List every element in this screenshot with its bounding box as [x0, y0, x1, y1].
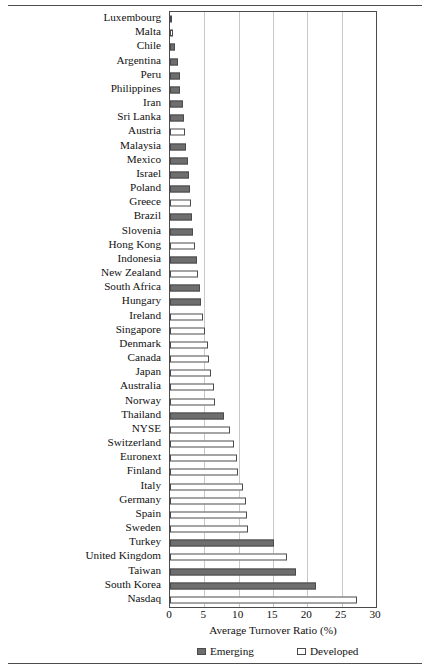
bar-row — [170, 196, 376, 210]
bar-row — [170, 380, 376, 394]
category-label-canada: Canada — [127, 352, 161, 363]
category-label-sweden: Sweden — [126, 522, 161, 533]
plot-area — [169, 11, 377, 608]
bar-mexico — [170, 157, 188, 164]
bar-indonesia — [170, 256, 197, 263]
category-label-philippines: Philippines — [111, 83, 161, 94]
bar-row — [170, 210, 376, 224]
bar-south-africa — [170, 285, 200, 292]
bar-row — [170, 154, 376, 168]
bar-japan — [170, 370, 211, 377]
bar-hungary — [170, 299, 201, 306]
bar-rows — [170, 12, 376, 607]
page-bottom-rule — [8, 663, 422, 664]
bar-row — [170, 409, 376, 423]
category-label-luxembourg: Luxembourg — [103, 12, 161, 23]
category-label-nasdaq: Nasdaq — [127, 593, 161, 604]
category-label-united-kingdom: United Kingdom — [85, 550, 161, 561]
x-axis-label: Average Turnover Ratio (%) — [169, 624, 377, 636]
bar-switzerland — [170, 441, 234, 448]
category-label-japan: Japan — [136, 366, 161, 377]
bar-row — [170, 480, 376, 494]
category-label-peru: Peru — [140, 69, 161, 80]
figure-container: LuxembourgMaltaChileArgentinaPeruPhilipp… — [0, 0, 430, 669]
bar-row — [170, 494, 376, 508]
legend-item-emerging: Emerging — [197, 645, 254, 657]
x-tick-label: 0 — [166, 608, 172, 620]
category-label-israel: Israel — [136, 168, 161, 179]
bar-row — [170, 225, 376, 239]
bar-taiwan — [170, 568, 296, 575]
category-label-germany: Germany — [119, 494, 161, 505]
bar-peru — [170, 72, 180, 79]
category-label-australia: Australia — [120, 380, 161, 391]
bar-nyse — [170, 426, 230, 433]
bar-malaysia — [170, 143, 186, 150]
x-tick-label: 15 — [266, 608, 277, 620]
bar-ireland — [170, 313, 203, 320]
x-tick-label: 30 — [369, 608, 380, 620]
bar-poland — [170, 186, 190, 193]
category-label-indonesia: Indonesia — [118, 253, 162, 264]
category-label-norway: Norway — [125, 395, 161, 406]
bar-row — [170, 111, 376, 125]
bar-philippines — [170, 86, 180, 93]
bar-row — [170, 508, 376, 522]
legend-swatch-emerging-icon — [197, 648, 206, 655]
bar-new-zealand — [170, 271, 198, 278]
bar-row — [170, 239, 376, 253]
bar-row — [170, 140, 376, 154]
bar-row — [170, 437, 376, 451]
category-label-poland: Poland — [130, 182, 161, 193]
category-label-ireland: Ireland — [129, 310, 161, 321]
bar-row — [170, 395, 376, 409]
bar-finland — [170, 469, 238, 476]
bar-row — [170, 465, 376, 479]
category-label-turkey: Turkey — [129, 536, 161, 547]
category-label-malta: Malta — [135, 26, 161, 37]
category-label-denmark: Denmark — [119, 338, 161, 349]
legend-swatch-developed-icon — [297, 648, 306, 655]
category-label-argentina: Argentina — [116, 55, 161, 66]
bar-iran — [170, 101, 183, 108]
bar-thailand — [170, 412, 224, 419]
bar-south-korea — [170, 582, 316, 589]
bar-row — [170, 565, 376, 579]
bar-row — [170, 593, 376, 607]
legend-label-emerging: Emerging — [210, 645, 254, 657]
bar-row — [170, 366, 376, 380]
bar-row — [170, 295, 376, 309]
bar-row — [170, 310, 376, 324]
bar-row — [170, 12, 376, 26]
bar-nasdaq — [170, 596, 357, 603]
bar-luxembourg — [170, 16, 172, 23]
category-label-finland: Finland — [127, 465, 161, 476]
bar-row — [170, 267, 376, 281]
bar-norway — [170, 398, 215, 405]
bar-brazil — [170, 214, 192, 221]
x-tick-label: 25 — [335, 608, 346, 620]
x-tick-label: 10 — [232, 608, 243, 620]
bar-israel — [170, 171, 189, 178]
bar-slovenia — [170, 228, 193, 235]
bar-sri-lanka — [170, 115, 184, 122]
bar-row — [170, 253, 376, 267]
bar-row — [170, 451, 376, 465]
bar-row — [170, 522, 376, 536]
bar-denmark — [170, 341, 208, 348]
category-label-chile: Chile — [137, 40, 161, 51]
category-label-slovenia: Slovenia — [122, 225, 161, 236]
bar-row — [170, 168, 376, 182]
bar-sweden — [170, 526, 248, 533]
category-label-malaysia: Malaysia — [120, 140, 161, 151]
bar-row — [170, 423, 376, 437]
bar-row — [170, 97, 376, 111]
bar-malta — [170, 30, 173, 37]
category-label-south-africa: South Africa — [104, 281, 161, 292]
category-label-mexico: Mexico — [127, 154, 161, 165]
category-label-sri-lanka: Sri Lanka — [117, 111, 161, 122]
x-axis-ticks: 051015202530 — [169, 608, 377, 624]
category-label-new-zealand: New Zealand — [101, 267, 161, 278]
x-tick-label: 20 — [301, 608, 312, 620]
category-label-singapore: Singapore — [116, 324, 161, 335]
